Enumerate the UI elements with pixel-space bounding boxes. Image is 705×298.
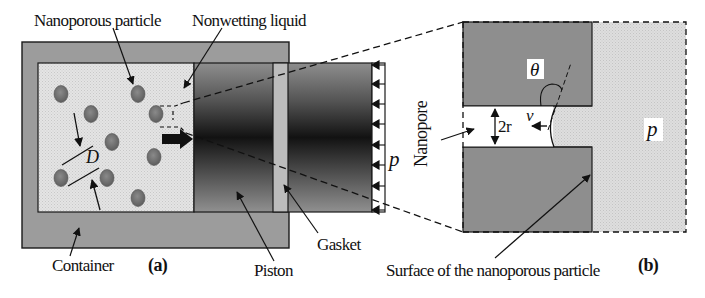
label-container: Container — [52, 257, 114, 274]
label-diameter: D — [86, 148, 98, 166]
pore-liquid-region — [553, 106, 593, 147]
panel-a — [22, 28, 385, 261]
particle — [147, 149, 161, 166]
particle — [149, 106, 163, 123]
gasket — [273, 63, 288, 212]
particle — [105, 134, 119, 151]
label-piston: Piston — [254, 262, 293, 279]
label-nanopore: Nanopore — [412, 101, 430, 167]
particle — [100, 170, 114, 187]
particle — [54, 170, 68, 187]
particle — [84, 106, 98, 123]
liquid-region-b — [592, 22, 686, 232]
label-gasket: Gasket — [317, 236, 361, 253]
label-nonwetting-liquid: Nonwetting liquid — [192, 12, 306, 29]
pressure-arrows — [372, 61, 385, 214]
panel-a-tag: (a) — [148, 256, 167, 274]
label-pore-width: 2r — [498, 118, 511, 135]
particle — [131, 86, 145, 103]
particle — [131, 190, 145, 207]
label-nanoporous-particle: Nanoporous particle — [34, 12, 161, 29]
label-pressure-a: p — [389, 149, 399, 170]
label-pressure-b: p — [647, 119, 657, 140]
label-contact-angle: θ — [530, 60, 539, 79]
panel-b-tag: (b) — [638, 256, 658, 274]
particle — [54, 86, 68, 103]
label-velocity: v — [526, 107, 533, 124]
label-surface: Surface of the nanoporous particle — [386, 262, 600, 279]
